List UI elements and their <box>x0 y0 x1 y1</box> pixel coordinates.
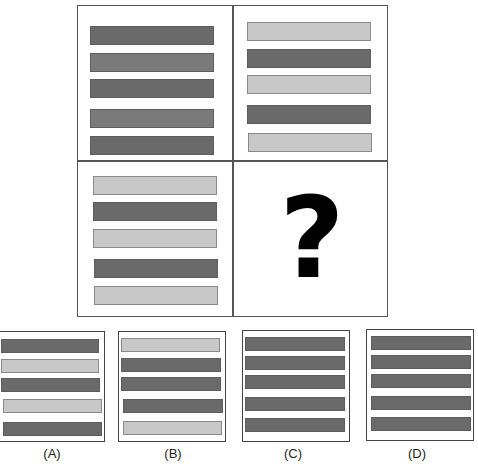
bar <box>245 397 345 411</box>
bar <box>94 259 218 278</box>
bar <box>371 374 471 388</box>
bar <box>93 176 217 195</box>
bar <box>1 339 99 353</box>
option-d-label: (D) <box>387 446 447 461</box>
bar <box>245 418 345 432</box>
bar <box>371 355 471 369</box>
bar <box>248 133 372 152</box>
bar <box>247 105 371 124</box>
bar <box>90 26 214 45</box>
bar <box>94 286 218 305</box>
bar <box>90 109 214 128</box>
option-b-label: (B) <box>143 446 203 461</box>
bar <box>3 399 102 413</box>
bar <box>245 375 345 389</box>
bar <box>123 399 223 413</box>
bar <box>121 377 221 391</box>
bar <box>1 378 100 392</box>
bar <box>123 421 222 435</box>
option-c-label: (C) <box>263 446 323 461</box>
bar <box>121 338 220 352</box>
bar <box>371 417 471 431</box>
question-mark-icon: ? <box>262 178 362 298</box>
option-a-label: (A) <box>22 446 82 461</box>
bar <box>90 136 214 155</box>
bar <box>371 336 471 350</box>
bar <box>371 396 471 410</box>
matrix-divider-horizontal <box>77 160 388 162</box>
bar <box>245 356 345 370</box>
bar <box>245 337 345 351</box>
bar <box>93 202 217 221</box>
bar <box>247 22 371 41</box>
bar <box>1 359 99 373</box>
bar <box>247 49 371 68</box>
bar <box>93 229 217 248</box>
bar <box>247 75 371 94</box>
bar <box>3 422 102 436</box>
bar <box>90 79 214 98</box>
bar <box>121 358 221 372</box>
bar <box>90 53 214 72</box>
